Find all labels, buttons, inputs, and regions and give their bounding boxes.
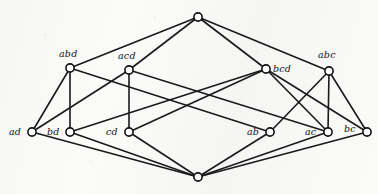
lattice-edge	[70, 69, 266, 132]
lattice-edge	[32, 70, 129, 132]
lattice-svg	[0, 0, 378, 194]
vertex-layer	[28, 13, 371, 181]
lattice-vertex	[125, 128, 133, 136]
vertex-label: ac	[305, 127, 316, 137]
lattice-vertex	[363, 128, 371, 136]
hasse-diagram-figure: abdacdbcdabcadbdcdabacbc	[0, 0, 378, 194]
lattice-vertex	[262, 65, 270, 73]
vertex-label: abd	[59, 49, 77, 59]
lattice-edge	[129, 132, 198, 177]
lattice-edge	[32, 68, 70, 132]
lattice-edge	[198, 17, 266, 69]
vertex-label: bc	[344, 124, 356, 134]
vertex-label: bcd	[273, 64, 291, 74]
vertex-label: acd	[118, 51, 136, 61]
lattice-vertex	[194, 173, 202, 181]
lattice-edge	[328, 71, 329, 132]
lattice-vertex	[125, 66, 133, 74]
edge-layer	[32, 17, 367, 177]
lattice-edge	[198, 17, 329, 71]
vertex-label: abc	[318, 50, 336, 60]
lattice-vertex	[28, 128, 36, 136]
lattice-edge	[70, 132, 198, 177]
lattice-edge	[198, 132, 367, 177]
vertex-label: bd	[47, 127, 60, 137]
lattice-edge	[198, 132, 328, 177]
lattice-vertex	[324, 128, 332, 136]
vertex-label: ad	[9, 127, 21, 137]
lattice-edge	[198, 132, 270, 177]
lattice-vertex	[66, 64, 74, 72]
lattice-vertex	[194, 13, 202, 21]
lattice-edge	[129, 17, 198, 70]
lattice-edge	[129, 69, 266, 132]
lattice-edge	[32, 132, 198, 177]
vertex-label: ab	[247, 127, 259, 137]
lattice-vertex	[66, 128, 74, 136]
lattice-vertex	[266, 128, 274, 136]
lattice-vertex	[325, 67, 333, 75]
vertex-label: cd	[106, 127, 118, 137]
